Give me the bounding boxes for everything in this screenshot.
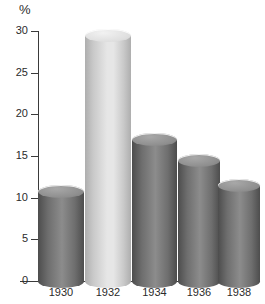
y-axis-tick-label: 5 <box>0 232 28 244</box>
bar-top-ellipse <box>178 154 220 167</box>
y-axis-tick <box>31 198 38 199</box>
bar-1938 <box>218 185 260 281</box>
y-axis-tick-label: 10 <box>0 191 28 203</box>
y-axis-tick-label: 15 <box>0 149 28 161</box>
y-axis-unit-label: % <box>19 2 31 17</box>
y-axis-tick <box>31 281 38 282</box>
y-axis-tick-label: 25 <box>0 66 28 78</box>
x-axis-label-1938: 1938 <box>218 286 260 298</box>
x-axis-label-1930: 1930 <box>38 286 84 298</box>
y-axis-tick <box>31 73 38 74</box>
x-axis-label-1932: 1932 <box>85 286 131 298</box>
bar-top-ellipse <box>132 133 177 146</box>
bar-top-ellipse <box>218 179 260 192</box>
bar-body <box>85 35 131 281</box>
bar-chart: % 051015202530 19301932193419361938 <box>0 0 265 304</box>
y-axis-line <box>38 31 39 282</box>
y-axis-tick <box>31 114 38 115</box>
x-axis-label-1936: 1936 <box>178 286 220 298</box>
y-axis-tick <box>31 31 38 32</box>
bar-1936 <box>178 160 220 281</box>
bar-1932 <box>85 35 131 281</box>
y-axis-tick-label: 0 <box>0 274 28 286</box>
bar-body <box>38 191 84 281</box>
bar-top-ellipse <box>85 29 131 42</box>
bar-top-ellipse <box>38 185 84 198</box>
x-axis-label-1934: 1934 <box>132 286 177 298</box>
y-axis-tick <box>31 156 38 157</box>
x-axis-line <box>20 281 260 282</box>
bar-body <box>178 160 220 281</box>
y-axis-tick-label: 30 <box>0 24 28 36</box>
y-axis-tick <box>31 239 38 240</box>
y-axis-tick-label: 20 <box>0 107 28 119</box>
bars-layer <box>0 0 265 304</box>
bar-1934 <box>132 139 177 281</box>
bar-1930 <box>38 191 84 281</box>
bar-body <box>132 139 177 281</box>
bar-body <box>218 185 260 281</box>
